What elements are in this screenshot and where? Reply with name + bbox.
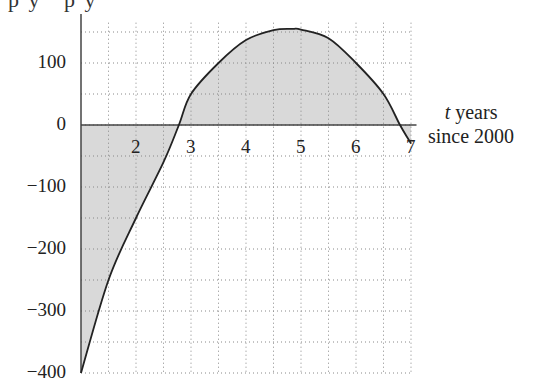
y-tick-label: −400 bbox=[4, 361, 66, 383]
x-tick-label: 5 bbox=[296, 136, 306, 158]
x-tick-label: 3 bbox=[186, 136, 196, 158]
x-tick-label: 2 bbox=[131, 136, 141, 158]
y-tick-label: 0 bbox=[4, 113, 66, 135]
shaded-area bbox=[81, 29, 411, 373]
x-axis-label: t years since 2000 bbox=[428, 100, 514, 148]
plot-area bbox=[0, 0, 536, 385]
y-tick-label: 100 bbox=[4, 51, 66, 73]
x-tick-label: 4 bbox=[241, 136, 251, 158]
x-axis-label-line1: years bbox=[455, 101, 497, 123]
y-tick-label: −200 bbox=[4, 237, 66, 259]
x-tick-label: 6 bbox=[351, 136, 361, 158]
x-axis-label-line2: since 2000 bbox=[428, 124, 514, 148]
x-axis-variable: t bbox=[445, 101, 451, 123]
y-tick-label: −300 bbox=[4, 299, 66, 321]
y-tick-label: −100 bbox=[4, 175, 66, 197]
x-tick-label: 7 bbox=[406, 136, 416, 158]
